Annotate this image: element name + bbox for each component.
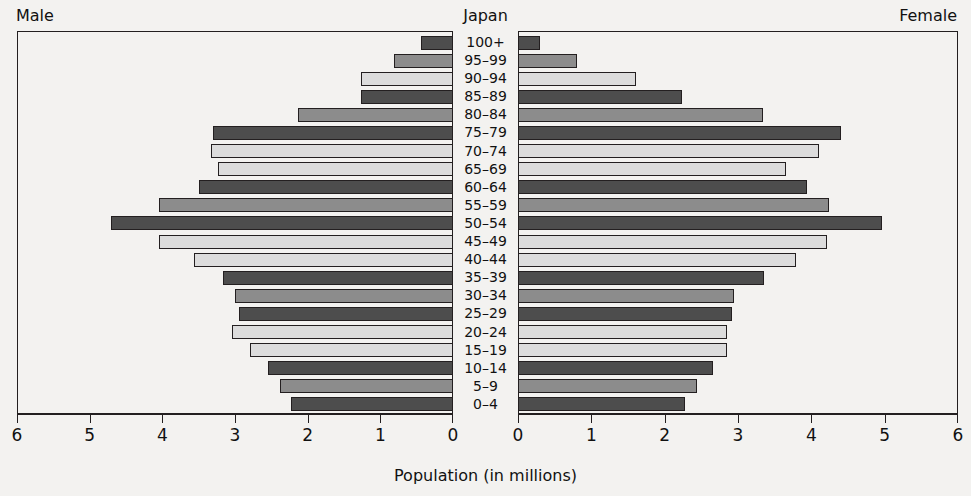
bar-row — [519, 214, 957, 232]
bar-row — [18, 341, 452, 359]
female-bar-90-94 — [518, 72, 636, 86]
age-group-label: 20–24 — [453, 323, 518, 341]
age-group-label: 55–59 — [453, 196, 518, 214]
age-group-label: 30–34 — [453, 286, 518, 304]
age-group-label: 15–19 — [453, 341, 518, 359]
age-group-label: 100+ — [453, 33, 518, 51]
female-axis-tick-label: 4 — [806, 425, 817, 445]
male-bar-20-24 — [232, 325, 453, 339]
female-axis-tick — [665, 414, 666, 423]
female-axis-tick — [591, 414, 592, 423]
population-pyramid-chart: Male Japan Female 100+95–9990–9485–8980–… — [0, 0, 971, 496]
bar-row — [519, 395, 957, 413]
age-group-label: 60–64 — [453, 178, 518, 196]
male-bar-100+ — [421, 36, 453, 50]
bar-row — [519, 251, 957, 269]
bar-row — [519, 88, 957, 106]
female-bar-85-89 — [518, 90, 682, 104]
male-axis-tick — [380, 414, 381, 423]
female-axis-tick-label: 6 — [953, 425, 964, 445]
female-bar-60-64 — [518, 180, 807, 194]
age-group-label: 85–89 — [453, 87, 518, 105]
male-bar-70-74 — [211, 144, 453, 158]
male-axis-tick — [308, 414, 309, 423]
bar-row — [18, 233, 452, 251]
female-axis-tick-label: 2 — [659, 425, 670, 445]
female-bar-25-29 — [518, 307, 732, 321]
male-axis-tick-label: 5 — [84, 425, 95, 445]
male-bar-65-69 — [218, 162, 453, 176]
female-bar-10-14 — [518, 361, 713, 375]
female-bar-15-19 — [518, 343, 727, 357]
male-axis-tick — [235, 414, 236, 423]
female-bar-5-9 — [518, 379, 697, 393]
bar-row — [18, 124, 452, 142]
bar-row — [18, 323, 452, 341]
male-bar-15-19 — [250, 343, 453, 357]
female-axis-tick — [811, 414, 812, 423]
female-bar-80-84 — [518, 108, 763, 122]
age-group-axis: 100+95–9990–9485–8980–8475–7970–7465–696… — [453, 31, 518, 414]
male-bar-45-49 — [159, 235, 453, 249]
age-group-label: 80–84 — [453, 105, 518, 123]
bar-row — [519, 359, 957, 377]
bar-row — [18, 178, 452, 196]
female-axis-tick — [957, 414, 958, 423]
male-bar-85-89 — [361, 90, 453, 104]
female-bar-rows — [519, 32, 957, 413]
male-axis-tick-label: 1 — [375, 425, 386, 445]
bar-row — [519, 287, 957, 305]
male-axis-tick — [452, 414, 453, 423]
age-group-label: 10–14 — [453, 359, 518, 377]
age-group-label: 45–49 — [453, 232, 518, 250]
male-bar-60-64 — [199, 180, 453, 194]
male-axis-tick-label: 0 — [448, 425, 459, 445]
male-bar-55-59 — [159, 198, 453, 212]
female-bar-70-74 — [518, 144, 819, 158]
female-bar-95-99 — [518, 54, 577, 68]
axis-caption: Population (in millions) — [0, 466, 971, 486]
female-axis-tick — [518, 414, 519, 423]
male-bar-80-84 — [298, 108, 453, 122]
age-group-label: 40–44 — [453, 250, 518, 268]
bar-row — [519, 34, 957, 52]
female-bar-40-44 — [518, 253, 796, 267]
bar-row — [519, 178, 957, 196]
country-title: Japan — [0, 6, 971, 26]
age-group-label: 75–79 — [453, 123, 518, 141]
female-bar-45-49 — [518, 235, 827, 249]
female-value-axis: 0123456 — [518, 414, 958, 458]
male-bar-0-4 — [291, 397, 453, 411]
female-bar-35-39 — [518, 271, 764, 285]
age-group-label: 65–69 — [453, 160, 518, 178]
female-plot-panel — [518, 31, 958, 414]
female-bar-50-54 — [518, 216, 882, 230]
bar-row — [519, 70, 957, 88]
female-bar-0-4 — [518, 397, 685, 411]
bar-row — [519, 124, 957, 142]
male-bar-90-94 — [361, 72, 453, 86]
male-bar-50-54 — [111, 216, 453, 230]
male-bar-95-99 — [394, 54, 453, 68]
bar-row — [18, 88, 452, 106]
bar-row — [519, 323, 957, 341]
female-bar-55-59 — [518, 198, 829, 212]
female-axis-tick — [738, 414, 739, 423]
male-axis-tick — [162, 414, 163, 423]
male-axis-tick — [90, 414, 91, 423]
bar-row — [18, 395, 452, 413]
female-bar-65-69 — [518, 162, 786, 176]
age-group-label: 5–9 — [453, 377, 518, 395]
male-axis-tick-label: 6 — [12, 425, 23, 445]
bar-row — [18, 196, 452, 214]
bar-row — [519, 233, 957, 251]
bar-row — [18, 269, 452, 287]
male-bar-75-79 — [213, 126, 453, 140]
female-bar-30-34 — [518, 289, 734, 303]
female-bar-100+ — [518, 36, 540, 50]
bar-row — [18, 287, 452, 305]
male-bar-30-34 — [235, 289, 453, 303]
male-axis-tick-label: 3 — [230, 425, 241, 445]
bar-row — [18, 142, 452, 160]
male-bar-35-39 — [223, 271, 453, 285]
